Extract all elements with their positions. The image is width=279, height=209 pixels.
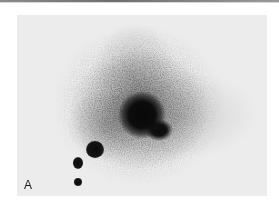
panel-label: A bbox=[24, 179, 32, 191]
spot-large bbox=[86, 141, 104, 158]
spot-small bbox=[74, 178, 82, 186]
spot-mid bbox=[73, 157, 83, 169]
autoradiograph-panel: A bbox=[17, 15, 267, 196]
top-rule-shadow bbox=[0, 2, 279, 3]
main-spot bbox=[17, 15, 267, 196]
